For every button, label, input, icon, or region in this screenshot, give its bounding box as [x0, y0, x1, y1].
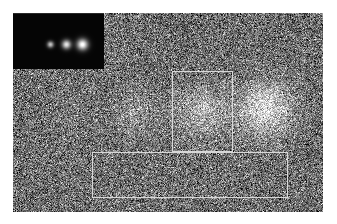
inset-sources-canvas: [13, 14, 104, 69]
region-of-interest-box[interactable]: [172, 71, 233, 152]
ground-truth-inset: [13, 13, 104, 69]
background-region-box[interactable]: [92, 152, 288, 198]
figure-root: [0, 0, 337, 224]
